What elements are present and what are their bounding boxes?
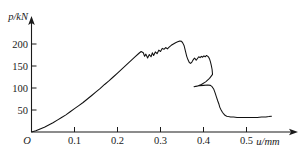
x-tick-label-0.5: 0.5	[240, 135, 253, 146]
origin-label: O	[23, 135, 31, 146]
x-tick-label-0.4: 0.4	[197, 135, 211, 146]
y-axis-title: p/kN	[7, 11, 29, 22]
y-tick-label-200: 200	[12, 39, 28, 50]
x-axis-title: u/mm	[256, 136, 280, 147]
y-tick-label-150: 150	[12, 61, 28, 72]
y-tick-label-50: 50	[18, 105, 29, 116]
x-tick-label-0.3: 0.3	[154, 135, 167, 146]
load-displacement-curve	[32, 41, 272, 132]
y-tick-label-100: 100	[12, 83, 28, 94]
load-displacement-chart: 200 150 100 50 0.1 0.2 0.3 0.4 0.5 O p/k…	[0, 0, 306, 155]
chart-svg: 200 150 100 50 0.1 0.2 0.3 0.4 0.5 O p/k…	[0, 0, 306, 155]
x-tick-label-0.2: 0.2	[111, 135, 124, 146]
x-tick-label-0.1: 0.1	[68, 135, 81, 146]
